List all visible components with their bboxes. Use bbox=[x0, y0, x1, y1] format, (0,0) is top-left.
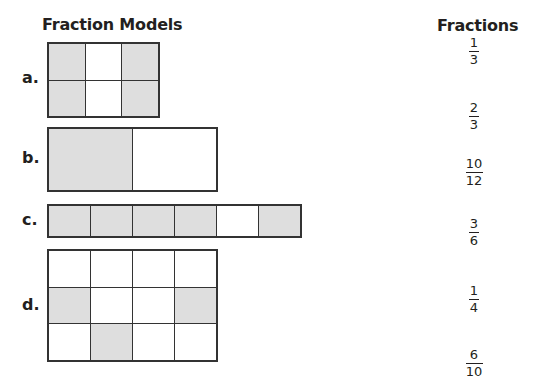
model-c-label: c. bbox=[22, 210, 38, 229]
shaded-cell bbox=[91, 324, 132, 360]
numerator: 2 bbox=[469, 101, 479, 115]
denominator: 12 bbox=[465, 174, 484, 188]
fraction-5: 1 4 bbox=[459, 284, 489, 315]
numerator: 3 bbox=[469, 217, 479, 231]
shaded-cell bbox=[49, 206, 90, 236]
fraction-3: 10 12 bbox=[459, 157, 489, 188]
shaded-cell bbox=[49, 44, 85, 80]
unshaded-cell bbox=[175, 324, 216, 360]
fraction-4: 3 6 bbox=[459, 217, 489, 248]
shaded-cell bbox=[175, 206, 216, 236]
model-c-grid bbox=[47, 204, 302, 238]
unshaded-cell bbox=[49, 251, 90, 287]
shaded-cell bbox=[175, 288, 216, 324]
fraction-6: 6 10 bbox=[459, 348, 489, 379]
shaded-cell bbox=[49, 129, 132, 190]
unshaded-cell bbox=[133, 129, 216, 190]
shaded-cell bbox=[91, 206, 132, 236]
unshaded-cell bbox=[91, 288, 132, 324]
unshaded-cell bbox=[175, 251, 216, 287]
fraction-1: 1 3 bbox=[459, 36, 489, 67]
unshaded-cell bbox=[86, 81, 122, 117]
shaded-cell bbox=[122, 44, 158, 80]
numerator: 1 bbox=[469, 284, 479, 298]
denominator: 6 bbox=[469, 234, 479, 248]
denominator: 3 bbox=[469, 53, 479, 67]
numerator: 1 bbox=[469, 36, 479, 50]
unshaded-cell bbox=[49, 324, 90, 360]
unshaded-cell bbox=[86, 44, 122, 80]
shaded-cell bbox=[49, 288, 90, 324]
numerator: 6 bbox=[469, 348, 479, 362]
shaded-cell bbox=[133, 206, 174, 236]
unshaded-cell bbox=[217, 206, 258, 236]
denominator: 10 bbox=[465, 365, 484, 379]
denominator: 3 bbox=[469, 118, 479, 132]
model-d-grid bbox=[47, 249, 218, 362]
shaded-cell bbox=[259, 206, 300, 236]
unshaded-cell bbox=[133, 251, 174, 287]
model-a-label: a. bbox=[22, 68, 39, 87]
fraction-2: 2 3 bbox=[459, 101, 489, 132]
shaded-cell bbox=[122, 81, 158, 117]
model-d-label: d. bbox=[22, 295, 40, 314]
numerator: 10 bbox=[465, 157, 484, 171]
unshaded-cell bbox=[133, 324, 174, 360]
model-b-grid bbox=[47, 127, 218, 192]
unshaded-cell bbox=[91, 251, 132, 287]
model-b-label: b. bbox=[22, 148, 40, 167]
unshaded-cell bbox=[133, 288, 174, 324]
model-a-grid bbox=[47, 42, 160, 118]
denominator: 4 bbox=[469, 301, 479, 315]
shaded-cell bbox=[49, 81, 85, 117]
fraction-models-heading: Fraction Models bbox=[42, 15, 182, 34]
fractions-heading: Fractions bbox=[437, 16, 518, 35]
